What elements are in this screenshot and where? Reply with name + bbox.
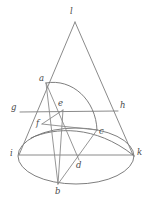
vertex-label-l: l <box>70 6 73 16</box>
vertex-label-f: f <box>35 118 41 128</box>
geometry-figure: l a g e h f c i d k b <box>0 0 150 205</box>
vertex-label-g: g <box>11 102 17 112</box>
vertex-label-c: c <box>99 126 104 136</box>
chord-e-b <box>58 110 63 184</box>
vertex-label-h: h <box>120 100 125 110</box>
vertex-label-e: e <box>58 98 63 108</box>
vertex-label-b: b <box>55 186 60 196</box>
cone-diagram: l a g e h f c i d k b <box>0 0 150 205</box>
conic-section-a-c <box>46 82 97 130</box>
chord-b-c <box>58 130 97 184</box>
vertex-label-i: i <box>10 148 13 158</box>
vertex-label-k: k <box>137 147 142 157</box>
vertex-label-d: d <box>76 160 82 170</box>
vertex-label-a: a <box>39 73 44 83</box>
chord-f-c <box>42 124 97 130</box>
line-g-h <box>20 111 118 112</box>
cone-right-side <box>75 22 133 155</box>
chord-a-b <box>46 83 58 184</box>
